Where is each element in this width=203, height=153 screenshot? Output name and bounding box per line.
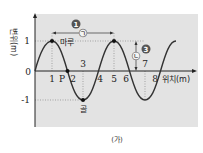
y-tick-1: 1 (24, 36, 30, 46)
x-tick-7: 7 (142, 59, 148, 69)
wave-diagram: ㉠ 1 ㉡ 3 변위(m) 1 -1 0 1 P 2 3 4 5 6 7 8 위… (0, 0, 203, 153)
x-tick-8: 8 (152, 74, 158, 84)
point-p (66, 69, 70, 73)
svg-text:변위(m): 변위(m) (9, 28, 19, 56)
crest-point-2 (112, 39, 116, 43)
y-tick-minus-1: -1 (21, 95, 30, 105)
x-tick-3: 3 (80, 59, 86, 69)
origin-label: 0 (25, 67, 31, 77)
x-tick-2: 2 (70, 74, 76, 84)
x-tick-4: 4 (97, 74, 103, 84)
y-axis-label: 변위(m) (9, 28, 19, 56)
point-p-label: P (59, 74, 65, 84)
trough-point (81, 98, 85, 102)
x-axis-label: 위치(m) (162, 75, 190, 84)
amplitude-badge: 3 (144, 46, 149, 54)
x-tick-5: 5 (111, 74, 117, 84)
crest-label: 마루 (60, 38, 74, 47)
trough-label: 골 (80, 105, 87, 114)
amplitude-marker: ㉡ (132, 52, 140, 61)
x-tick-1: 1 (49, 74, 55, 84)
wavelength-badge: 1 (74, 21, 79, 29)
figure-caption: (가) (111, 135, 123, 144)
x-tick-6: 6 (123, 74, 129, 84)
crest-point (50, 39, 54, 43)
wavelength-marker: ㉠ (79, 29, 87, 38)
